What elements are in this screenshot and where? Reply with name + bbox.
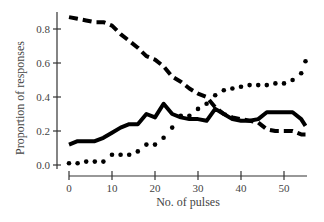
y-tick-label: 0.4 <box>36 91 50 103</box>
data-point <box>290 78 295 83</box>
data-point <box>153 142 158 147</box>
data-point <box>222 88 227 93</box>
x-axis-label: No. of pulses <box>156 195 220 209</box>
x-tick-label: 0 <box>66 182 72 194</box>
data-point <box>239 85 244 90</box>
data-point <box>161 136 166 141</box>
solid-series-line <box>69 104 306 145</box>
data-point <box>299 71 304 76</box>
data-point <box>127 153 132 158</box>
line-chart: 0.00.20.40.60.8 01020304050 Proportion o… <box>0 0 324 222</box>
data-point <box>187 113 192 118</box>
data-point <box>273 81 278 86</box>
data-point <box>75 161 80 166</box>
plot-area <box>67 17 308 166</box>
data-point <box>256 83 261 88</box>
data-point <box>196 107 201 112</box>
x-tick-label: 40 <box>236 182 248 194</box>
data-point <box>144 142 149 147</box>
x-axis: 01020304050 <box>66 171 307 194</box>
data-point <box>179 113 184 118</box>
data-point <box>84 159 89 164</box>
x-tick-label: 20 <box>150 182 162 194</box>
data-point <box>204 102 209 107</box>
data-point <box>93 159 98 164</box>
x-tick-label: 30 <box>193 182 205 194</box>
data-point <box>101 159 106 164</box>
data-point <box>303 59 308 64</box>
data-point <box>110 153 115 158</box>
data-point <box>247 83 252 88</box>
data-point <box>213 93 218 98</box>
y-tick-label: 0.0 <box>36 159 50 171</box>
y-axis-label: Proportion of responses <box>13 41 27 155</box>
data-point <box>282 81 287 86</box>
x-tick-label: 10 <box>107 182 119 194</box>
y-axis: 0.00.20.40.60.8 <box>36 12 61 171</box>
data-point <box>136 149 141 154</box>
data-point <box>230 86 235 91</box>
y-tick-label: 0.2 <box>36 125 50 137</box>
y-tick-label: 0.6 <box>36 57 50 69</box>
y-tick-label: 0.8 <box>36 23 50 35</box>
x-tick-label: 50 <box>279 182 291 194</box>
data-point <box>265 83 270 88</box>
data-point <box>118 153 123 158</box>
data-point <box>170 125 175 130</box>
data-point <box>67 161 72 166</box>
